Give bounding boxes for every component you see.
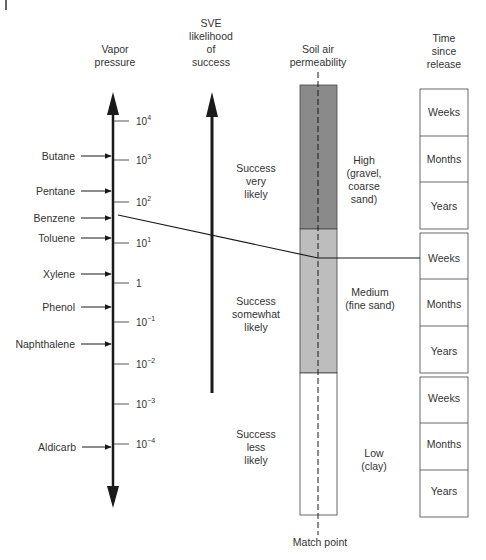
time-cell-months: Months: [427, 438, 461, 450]
tick-label-1e4: 104: [136, 114, 151, 127]
svp-nomograph: Vapor pressure SVE likelihood of success…: [0, 0, 486, 560]
svg-text:permeability: permeability: [290, 56, 347, 68]
compound-toluene: Toluene: [38, 232, 75, 244]
time-group-3: Weeks Months Years: [420, 377, 468, 517]
time-group-1: Weeks Months Years: [420, 89, 468, 229]
compound-labels: Butane Pentane Benzene Toluene Xylene Ph…: [15, 150, 76, 453]
svg-text:release: release: [427, 58, 462, 70]
svg-text:SVE: SVE: [200, 17, 221, 29]
svg-text:Soil air: Soil air: [302, 43, 335, 55]
svg-text:very: very: [246, 175, 267, 187]
svg-text:coarse: coarse: [348, 180, 380, 192]
time-group-2: Weeks Months Years: [420, 233, 468, 373]
vapor-pressure-axis: [107, 92, 119, 508]
svg-text:somewhat: somewhat: [232, 308, 280, 320]
tick-label-1e1: 101: [136, 236, 151, 249]
axis-up-arrowhead-icon: [107, 92, 119, 115]
svg-text:Medium: Medium: [351, 286, 389, 298]
compound-benzene: Benzene: [34, 212, 76, 224]
svg-text:pressure: pressure: [95, 56, 136, 68]
svg-text:likely: likely: [244, 454, 268, 466]
sve-likelihood-axis: [206, 92, 218, 393]
svg-text:Time: Time: [433, 32, 456, 44]
svg-text:Vapor: Vapor: [101, 43, 129, 55]
svg-text:since: since: [432, 45, 457, 57]
svg-text:Low: Low: [364, 447, 384, 459]
tick-label-1e-2: 10−2: [136, 357, 155, 370]
compound-phenol: Phenol: [42, 301, 75, 313]
tick-label-1e2: 102: [136, 195, 151, 208]
sve-zone-somewhat-likely: Success somewhat likely: [232, 295, 280, 333]
svg-text:(gravel,: (gravel,: [346, 167, 381, 179]
svg-text:Success: Success: [236, 295, 276, 307]
svg-text:likely: likely: [244, 321, 268, 333]
sve-zone-less-likely: Success less likely: [236, 428, 276, 466]
vapor-pressure-header: Vapor pressure: [95, 43, 136, 68]
compound-xylene: Xylene: [43, 268, 75, 280]
svg-text:(fine sand): (fine sand): [345, 299, 395, 311]
compound-aldicarb: Aldicarb: [38, 441, 76, 453]
time-cell-months: Months: [427, 298, 461, 310]
tick-label-1e-1: 10−1: [136, 315, 155, 328]
svg-text:Success: Success: [236, 428, 276, 440]
svg-text:(clay): (clay): [361, 460, 387, 472]
sve-zone-labels: Success very likely Success somewhat lik…: [232, 162, 280, 466]
time-since-release-header: Time since release: [427, 32, 462, 70]
vapor-pressure-ticks: [114, 121, 129, 444]
sve-likelihood-header: SVE likelihood of success: [189, 17, 233, 68]
example-match-line: [118, 215, 420, 258]
soil-permeability-column: [300, 72, 337, 535]
compound-pentane: Pentane: [36, 185, 75, 197]
time-cell-weeks: Weeks: [428, 252, 460, 264]
time-cell-months: Months: [427, 153, 461, 165]
vapor-pressure-tick-labels: 104 103 102 101 1 10−1 10−2 10−3 10−4: [136, 114, 155, 450]
tick-label-1e-3: 10−3: [136, 397, 155, 410]
tick-label-1e3: 103: [136, 153, 151, 166]
svg-text:sand): sand): [351, 193, 377, 205]
time-cell-years: Years: [431, 345, 457, 357]
svg-text:likelihood: likelihood: [189, 30, 233, 42]
soil-zone-medium-label: Medium (fine sand): [345, 286, 395, 311]
svg-text:High: High: [353, 154, 375, 166]
time-cell-weeks: Weeks: [428, 106, 460, 118]
match-point-label: Match point: [293, 536, 347, 548]
compound-pointer-arrows: [81, 156, 111, 447]
svg-text:less: less: [247, 441, 266, 453]
time-cell-weeks: Weeks: [428, 392, 460, 404]
svg-text:success: success: [192, 56, 230, 68]
tick-label-1e-4: 10−4: [136, 437, 155, 450]
soil-zone-low-label: Low (clay): [361, 447, 387, 472]
tick-label-1: 1: [136, 278, 142, 289]
svg-text:Success: Success: [236, 162, 276, 174]
soil-zone-high-label: High (gravel, coarse sand): [346, 154, 381, 205]
compound-butane: Butane: [42, 150, 75, 162]
compound-naphthalene: Naphthalene: [15, 338, 75, 350]
soil-zone-labels: High (gravel, coarse sand) Medium (fine …: [345, 154, 395, 472]
svg-text:likely: likely: [244, 188, 268, 200]
sve-up-arrowhead-icon: [206, 92, 218, 117]
axis-down-arrowhead-icon: [107, 486, 119, 508]
svg-text:of: of: [207, 43, 216, 55]
soil-permeability-header: Soil air permeability: [290, 43, 347, 68]
sve-zone-very-likely: Success very likely: [236, 162, 276, 200]
time-cell-years: Years: [431, 485, 457, 497]
time-cell-years: Years: [431, 200, 457, 212]
